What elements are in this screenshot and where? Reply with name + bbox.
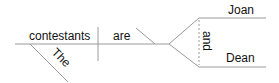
fork-upper xyxy=(169,18,199,44)
diagram-canvas: contestants are The Joan Dean and xyxy=(0,0,279,83)
complement-bottom-word: Dean xyxy=(226,51,255,65)
complement-slant-line xyxy=(136,28,155,44)
sentence-diagram: contestants are The Joan Dean and xyxy=(0,0,279,83)
subject-word: contestants xyxy=(29,29,90,43)
fork-lower xyxy=(169,44,199,67)
conjunction-word: and xyxy=(200,31,214,51)
complement-top-word: Joan xyxy=(228,3,254,17)
verb-word: are xyxy=(113,29,131,43)
